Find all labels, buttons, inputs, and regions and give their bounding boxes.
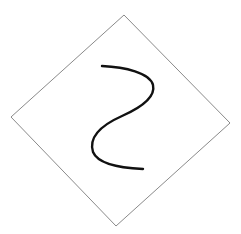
diagram-canvas bbox=[0, 0, 241, 234]
